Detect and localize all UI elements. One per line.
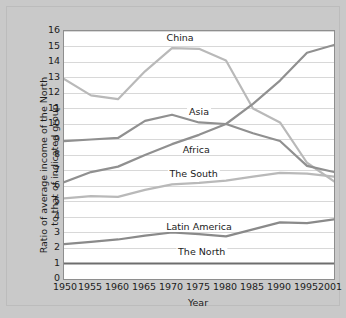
y-tick-label: 7 — [38, 165, 60, 175]
series-label-latin-america: Latin America — [164, 222, 234, 232]
y-tick-label: 15 — [38, 41, 60, 51]
y-tick-label: 13 — [38, 72, 60, 82]
x-axis-title: Year — [63, 297, 333, 308]
series-label-china: China — [165, 33, 196, 43]
y-tick-label: 5 — [38, 196, 60, 206]
chart-frame: Ratio of average income of the North to … — [6, 6, 340, 306]
y-tick-label: 2 — [38, 242, 60, 252]
y-tick-label: 8 — [38, 149, 60, 159]
plot-area: ChinaAsiaAfricaThe SouthLatin AmericaThe… — [63, 30, 335, 280]
y-tick-label: 10 — [38, 118, 60, 128]
y-axis-tick-labels: 012345678910111213141516 — [35, 30, 60, 278]
x-tick-label: 1985 — [240, 281, 264, 292]
y-tick-label: 4 — [38, 211, 60, 221]
x-tick-label: 1965 — [132, 281, 156, 292]
y-tick-label: 1 — [38, 258, 60, 268]
plot-svg — [64, 31, 334, 279]
y-tick-label: 12 — [38, 87, 60, 97]
x-tick-label: 1960 — [105, 281, 129, 292]
x-tick-label: 1980 — [213, 281, 237, 292]
y-tick-label: 6 — [38, 180, 60, 190]
x-axis-tick-labels: 1950195519601965197019751980198519901995… — [63, 281, 333, 295]
series-label-asia: Asia — [187, 107, 211, 117]
y-tick-label: 14 — [38, 56, 60, 66]
x-tick-label: 1955 — [78, 281, 102, 292]
series-label-the-south: The South — [167, 169, 219, 179]
y-tick-label: 9 — [38, 134, 60, 144]
y-tick-label: 3 — [38, 227, 60, 237]
x-tick-label: 1975 — [186, 281, 210, 292]
x-tick-label: 1970 — [159, 281, 183, 292]
y-tick-label: 11 — [38, 103, 60, 113]
y-tick-label: 16 — [38, 25, 60, 35]
chart-container: Ratio of average income of the North to … — [0, 0, 346, 318]
series-label-the-north: The North — [176, 247, 227, 257]
x-tick-label: 1990 — [267, 281, 291, 292]
x-tick-label: 1950 — [53, 281, 77, 292]
x-tick-label: 1995 — [294, 281, 318, 292]
series-label-africa: Africa — [181, 145, 212, 155]
x-tick-label: 2001 — [318, 281, 342, 292]
